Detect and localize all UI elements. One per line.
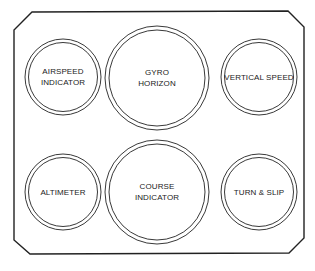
label-line: VERTICAL SPEED (224, 72, 293, 83)
label-gyro-horizon: GYRO HORIZON (138, 67, 176, 89)
label-turn-and-slip: TURN & SLIP (234, 187, 284, 198)
label-line: ALTIMETER (40, 187, 85, 198)
label-line: COURSE (135, 181, 179, 192)
label-line: INDICATOR (135, 192, 179, 203)
label-line: HORIZON (138, 78, 176, 89)
label-altimeter: ALTIMETER (40, 187, 85, 198)
label-course-indicator: COURSE INDICATOR (135, 181, 179, 203)
label-line: GYRO (138, 67, 176, 78)
label-airspeed-indicator: AIRSPEED INDICATOR (41, 66, 85, 88)
panel-outline (0, 0, 315, 271)
label-line: INDICATOR (41, 77, 85, 88)
label-line: TURN & SLIP (234, 187, 284, 198)
label-vertical-speed: VERTICAL SPEED (224, 72, 293, 83)
label-line: AIRSPEED (41, 66, 85, 77)
panel-border (14, 11, 304, 254)
